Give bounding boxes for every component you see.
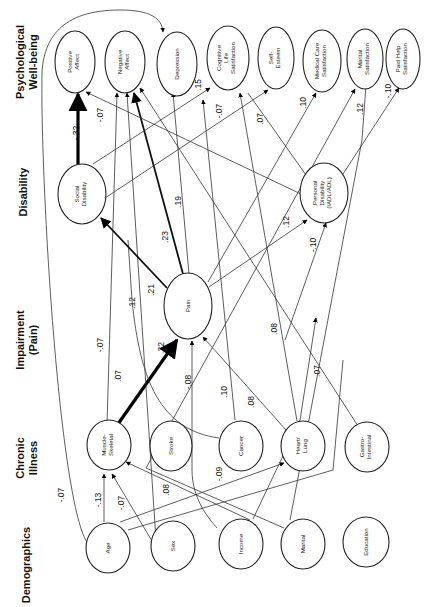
node-medical-care-satisfaction: Medical Care Satisfaction xyxy=(303,30,341,92)
svg-text:Demographics: Demographics xyxy=(20,527,32,603)
svg-text:.10: .10 xyxy=(219,386,229,398)
svg-text:.12: .12 xyxy=(127,297,137,309)
svg-text:Affect: Affect xyxy=(123,54,130,70)
svg-text:Disability: Disability xyxy=(318,180,325,206)
svg-text:Illness: Illness xyxy=(27,441,39,475)
layer-header-demographics: Demographics xyxy=(20,527,32,603)
svg-text:Disability: Disability xyxy=(17,167,29,217)
svg-text:-.08: -.08 xyxy=(183,374,193,389)
svg-text:.08: .08 xyxy=(246,396,256,408)
svg-text:.12: .12 xyxy=(281,216,291,228)
svg-text:Marital: Marital xyxy=(356,50,363,69)
svg-text:Chronic: Chronic xyxy=(14,437,26,479)
svg-text:.07: .07 xyxy=(113,370,123,382)
svg-text:Social: Social xyxy=(73,186,80,203)
svg-text:-.07: -.07 xyxy=(116,495,126,510)
node-self-esteem: Self- Esteem xyxy=(258,27,294,89)
svg-text:-.07: -.07 xyxy=(214,103,224,118)
svg-text:Heart/: Heart/ xyxy=(294,437,301,454)
svg-text:Stroke: Stroke xyxy=(167,437,174,455)
layer-header-disability: Disability xyxy=(17,167,29,217)
node-depression: Depression xyxy=(157,32,197,96)
svg-text:Impairment: Impairment xyxy=(14,310,26,370)
svg-text:-.07: -.07 xyxy=(95,107,105,122)
node-sex: Sex xyxy=(151,521,195,571)
svg-text:Paid Help: Paid Help xyxy=(394,45,401,72)
node-social-disability: Social Disability xyxy=(58,164,106,224)
svg-text:.12: .12 xyxy=(355,103,365,115)
svg-text:.32: .32 xyxy=(156,342,166,354)
svg-text:Well-being: Well-being xyxy=(27,34,39,89)
svg-text:Negative: Negative xyxy=(116,49,123,74)
node-positive-affect: Positive Affect xyxy=(55,31,95,93)
node-age: Age xyxy=(86,523,130,573)
svg-text:Pain: Pain xyxy=(184,299,191,312)
svg-text:Marital: Marital xyxy=(299,535,306,554)
svg-text:Age: Age xyxy=(104,542,111,554)
node-cancer: Cancer xyxy=(219,421,263,471)
svg-text:-.32: -.32 xyxy=(71,125,81,140)
node-gastrointestinal: Gastro- Intestinal xyxy=(345,422,389,472)
node-musculoskeletal: Muscle- Skeletal xyxy=(87,420,131,470)
svg-text:Satisfaction: Satisfaction xyxy=(229,41,236,74)
svg-text:-.10: -.10 xyxy=(383,83,393,98)
svg-text:Intestinal: Intestinal xyxy=(365,435,372,460)
svg-text:.08: .08 xyxy=(269,323,279,335)
svg-text:Self-: Self- xyxy=(267,52,274,65)
svg-text:.07: .07 xyxy=(255,113,265,125)
svg-text:Esteem: Esteem xyxy=(274,48,281,69)
svg-text:Life: Life xyxy=(222,52,229,63)
path-diagram: Psychological Well-being Disability Impa… xyxy=(0,0,429,607)
svg-text:Disability: Disability xyxy=(80,181,87,207)
node-negative-affect: Negative Affect xyxy=(105,31,145,93)
node-stroke: Stroke xyxy=(150,421,192,471)
node-pain: Pain xyxy=(164,273,212,339)
svg-text:Satisfaction: Satisfaction xyxy=(320,44,327,77)
svg-text:Gastro-: Gastro- xyxy=(358,437,365,458)
svg-text:.10: .10 xyxy=(298,97,308,109)
svg-text:Cognitive: Cognitive xyxy=(215,45,222,71)
svg-text:Skeletal: Skeletal xyxy=(107,434,114,456)
node-marital-satisfaction: Marital Satisfaction xyxy=(347,29,383,89)
node-heart-lung: Heart/ Lung xyxy=(281,421,325,471)
svg-text:.21: .21 xyxy=(146,284,156,296)
svg-text:-.09: -.09 xyxy=(214,466,224,481)
svg-text:(Pain): (Pain) xyxy=(27,324,39,355)
node-education: Education xyxy=(343,517,389,567)
svg-text:Affect: Affect xyxy=(73,54,80,70)
layer-header-wellbeing: Psychological Well-being xyxy=(14,25,39,99)
svg-text:-.07: -.07 xyxy=(95,337,105,352)
svg-text:Personal: Personal xyxy=(311,181,318,205)
svg-text:Positive: Positive xyxy=(66,51,73,73)
svg-text:Muscle-: Muscle- xyxy=(100,434,107,456)
layer-header-impairment: Impairment (Pain) xyxy=(14,310,39,370)
node-marital: Marital xyxy=(281,519,325,569)
svg-text:Satisfaction: Satisfaction xyxy=(363,42,370,75)
svg-text:Income: Income xyxy=(237,533,244,554)
svg-text:Medical Care: Medical Care xyxy=(313,42,320,79)
svg-text:-.07: -.07 xyxy=(56,487,66,502)
svg-text:(IADL/ADL): (IADL/ADL) xyxy=(325,177,332,209)
edges xyxy=(42,10,399,546)
svg-text:.23: .23 xyxy=(160,231,170,243)
layer-header-chronic: Chronic Illness xyxy=(14,437,39,479)
svg-text:-.10: -.10 xyxy=(308,237,318,252)
svg-text:Psychological: Psychological xyxy=(14,25,26,99)
node-cognitive-life-satisfaction: Cognitive Life Satisfaction xyxy=(207,26,249,90)
svg-text:Depression: Depression xyxy=(173,48,180,80)
node-paid-help-satisfaction: Paid Help Satisfaction xyxy=(386,29,420,89)
node-personal-disability: Personal Disability (IADL/ADL) xyxy=(300,163,348,223)
node-income: Income xyxy=(219,519,263,569)
svg-text:Education: Education xyxy=(362,528,369,556)
svg-text:Lung: Lung xyxy=(301,439,308,453)
svg-text:-.13: -.13 xyxy=(93,492,103,507)
svg-text:.08: .08 xyxy=(161,484,171,496)
svg-text:.07: .07 xyxy=(312,365,322,377)
svg-text:Sex: Sex xyxy=(169,540,176,552)
svg-text:Satisfaction: Satisfaction xyxy=(401,42,408,75)
svg-text:.19: .19 xyxy=(173,196,183,208)
svg-text:Cancer: Cancer xyxy=(237,436,244,456)
